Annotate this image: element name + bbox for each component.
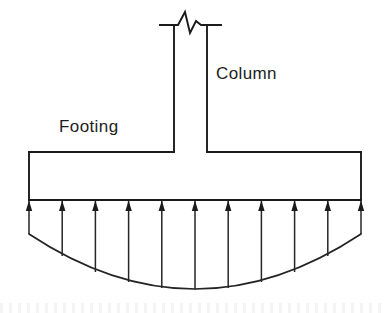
pressure-arrow xyxy=(225,201,231,289)
pressure-arrow-head xyxy=(159,201,165,212)
column-label: Column xyxy=(216,64,277,83)
diagram-canvas: Column Footing xyxy=(0,0,384,313)
pressure-arrow-head xyxy=(125,201,131,212)
break-zigzag-line xyxy=(160,12,221,33)
pressure-arrow xyxy=(125,201,131,283)
pressure-distribution xyxy=(26,201,364,290)
pressure-arrow xyxy=(59,201,65,257)
column-break-symbol xyxy=(160,12,221,33)
pressure-arrow-head xyxy=(225,201,231,212)
pressure-arrow-head xyxy=(92,201,98,212)
pressure-arrow xyxy=(358,201,364,235)
pressure-arrow xyxy=(192,201,198,290)
pressure-arrow xyxy=(258,201,264,283)
pressure-arrow-head xyxy=(325,201,331,212)
footing-pressure-diagram: Column Footing xyxy=(0,0,384,313)
footing-block xyxy=(29,152,361,200)
column-shaft xyxy=(174,25,207,152)
pressure-arrow-head xyxy=(192,201,198,212)
pressure-arrow xyxy=(291,201,297,273)
pressure-arrows xyxy=(26,201,364,290)
pressure-arrow xyxy=(92,201,98,273)
pressure-arrow xyxy=(159,201,165,289)
pressure-arrow-head xyxy=(59,201,65,212)
pressure-arrow xyxy=(325,201,331,257)
pressure-arrow xyxy=(26,201,32,235)
pressure-arrow-head xyxy=(26,201,32,212)
pressure-arrow-head xyxy=(358,201,364,212)
pressure-arrow-head xyxy=(291,201,297,212)
pressure-arrow-head xyxy=(258,201,264,212)
footing-label: Footing xyxy=(59,117,119,136)
